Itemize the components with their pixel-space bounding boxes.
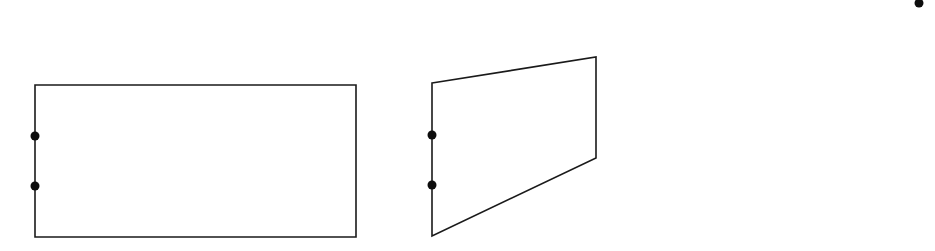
- quadrilateral-figure: [428, 57, 597, 236]
- quadrilateral-terminal-dot-upper: [428, 131, 437, 140]
- rectangle-terminal-dot-upper: [31, 132, 40, 141]
- quadrilateral-terminal-dot-lower: [428, 181, 437, 190]
- rectangle-terminal-dot-lower: [31, 182, 40, 191]
- corner-dot: [915, 0, 924, 8]
- rectangle-figure: [31, 85, 357, 237]
- diagram-canvas: [0, 0, 935, 251]
- rectangle-outline: [35, 85, 356, 237]
- quadrilateral-outline: [432, 57, 596, 236]
